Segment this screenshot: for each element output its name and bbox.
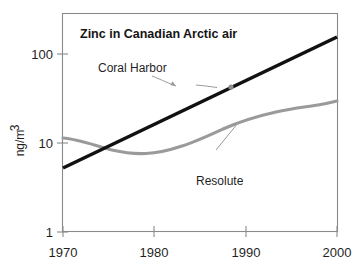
coral-harbor-leader-arrowhead: [171, 81, 177, 86]
y-axis-title-exponent: 3: [8, 124, 22, 131]
x-tick-label-2000: 2000: [323, 245, 352, 260]
y-tick-label-10: 10: [39, 136, 53, 151]
series-label-resolute: Resolute: [196, 174, 244, 188]
y-axis-title: ng/m 3: [8, 124, 27, 156]
coral-harbor-leader-line-2: [196, 85, 217, 88]
series-line-coral-harbor: [63, 37, 337, 168]
y-tick-label-1: 1: [46, 225, 53, 240]
y-axis-title-text: ng/m: [13, 130, 27, 157]
chart-title: Zinc in Canadian Arctic air: [80, 27, 237, 41]
x-tick-label-1980: 1980: [140, 245, 169, 260]
series-label-coral-harbor: Coral Harbor: [98, 61, 167, 75]
y-tick-label-100: 100: [31, 47, 53, 62]
x-tick-label-1990: 1990: [232, 245, 261, 260]
coral-harbor-data-marker: [228, 84, 233, 89]
chart-figure: 100 10 1 1970 1980 1990 2000 ng/m 3 Zinc…: [0, 0, 354, 269]
x-tick-label-1970: 1970: [49, 245, 78, 260]
zinc-arctic-air-line-chart: 100 10 1 1970 1980 1990 2000 ng/m 3 Zinc…: [0, 0, 354, 269]
series-line-resolute: [63, 101, 337, 154]
plot-frame: [63, 14, 338, 232]
